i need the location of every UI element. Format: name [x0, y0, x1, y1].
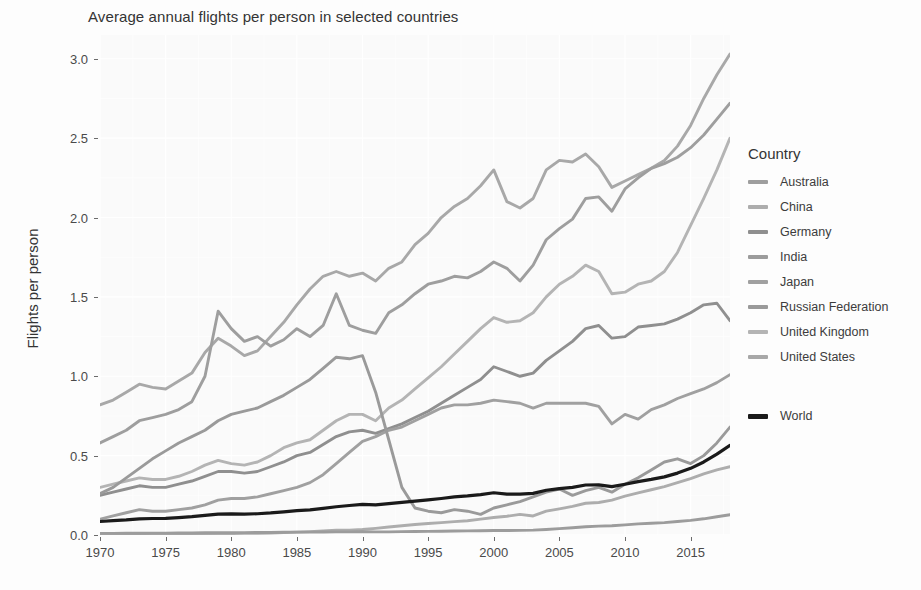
- legend-label: United States: [780, 350, 855, 364]
- y-tick-label: 1.0: [46, 369, 88, 384]
- legend-swatch-india: [748, 255, 768, 259]
- legend-item-list: AustraliaChinaGermanyIndiaJapanRussian F…: [748, 171, 918, 368]
- legend-item-germany[interactable]: Germany: [748, 221, 918, 243]
- y-tick-mark: [94, 218, 98, 219]
- legend-item-australia[interactable]: Australia: [748, 171, 918, 193]
- legend-swatch-germany: [748, 230, 768, 234]
- chart-title: Average annual flights per person in sel…: [88, 8, 458, 25]
- y-tick-mark: [94, 456, 98, 457]
- x-tick-label: 1995: [414, 545, 443, 560]
- x-tick-mark: [428, 537, 429, 541]
- legend-title: Country: [748, 145, 918, 162]
- y-tick-label: 0.0: [46, 528, 88, 543]
- chart-root: Average annual flights per person in sel…: [0, 0, 921, 590]
- x-tick-mark: [625, 537, 626, 541]
- x-tick-mark: [363, 537, 364, 541]
- legend-item-japan[interactable]: Japan: [748, 271, 918, 293]
- y-tick-label: 0.5: [46, 448, 88, 463]
- y-tick-mark: [94, 376, 98, 377]
- legend-swatch-united-kingdom: [748, 330, 768, 334]
- x-tick-label: 2005: [545, 545, 574, 560]
- legend-item-russian-federation[interactable]: Russian Federation: [748, 296, 918, 318]
- x-tick-label: 1975: [151, 545, 180, 560]
- x-tick-label: 1970: [86, 545, 115, 560]
- legend-label: China: [780, 200, 813, 214]
- x-tick-mark: [100, 537, 101, 541]
- legend: Country AustraliaChinaGermanyIndiaJapanR…: [748, 145, 918, 430]
- legend-item-united-kingdom[interactable]: United Kingdom: [748, 321, 918, 343]
- y-tick-mark: [94, 535, 98, 536]
- legend-swatch-russian-federation: [748, 305, 768, 309]
- x-tick-label: 2015: [676, 545, 705, 560]
- plot-area: [100, 35, 730, 535]
- legend-label: Germany: [780, 225, 831, 239]
- legend-item-india[interactable]: India: [748, 246, 918, 268]
- legend-item-united-states[interactable]: United States: [748, 346, 918, 368]
- x-tick-mark: [231, 537, 232, 541]
- legend-spacer: [748, 371, 918, 405]
- y-tick-label: 1.5: [46, 289, 88, 304]
- y-tick-mark: [94, 297, 98, 298]
- legend-label: United Kingdom: [780, 325, 869, 339]
- y-tick-label: 2.0: [46, 210, 88, 225]
- legend-swatch-world: [748, 414, 768, 419]
- plot-panel: [100, 35, 730, 535]
- legend-swatch-australia: [748, 180, 768, 184]
- y-tick-mark: [94, 138, 98, 139]
- legend-label: Russian Federation: [780, 300, 888, 314]
- x-tick-mark: [297, 537, 298, 541]
- x-tick-label: 2000: [479, 545, 508, 560]
- x-tick-mark: [166, 537, 167, 541]
- x-tick-label: 1985: [282, 545, 311, 560]
- x-tick-mark: [691, 537, 692, 541]
- legend-swatch-china: [748, 205, 768, 209]
- y-tick-label: 3.0: [46, 51, 88, 66]
- legend-label: Japan: [780, 275, 814, 289]
- legend-label: Australia: [780, 175, 829, 189]
- legend-swatch-japan: [748, 280, 768, 284]
- legend-item-china[interactable]: China: [748, 196, 918, 218]
- legend-swatch-united-states: [748, 355, 768, 359]
- x-tick-label: 1990: [348, 545, 377, 560]
- legend-item-world[interactable]: World: [748, 405, 918, 427]
- y-tick-label: 2.5: [46, 131, 88, 146]
- x-tick-mark: [494, 537, 495, 541]
- x-tick-label: 2010: [611, 545, 640, 560]
- y-tick-mark: [94, 59, 98, 60]
- legend-label: India: [780, 250, 807, 264]
- y-axis-title: Flights per person: [24, 179, 41, 399]
- legend-label-world: World: [780, 409, 812, 423]
- x-tick-mark: [559, 537, 560, 541]
- x-tick-label: 1980: [217, 545, 246, 560]
